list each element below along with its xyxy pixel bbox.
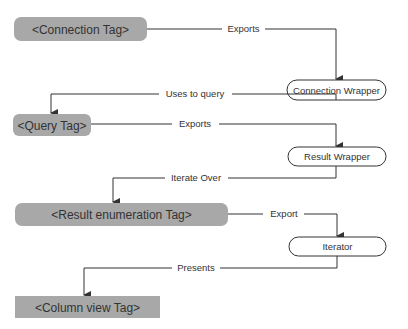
edge-query-exports: Exports: [91, 118, 336, 146]
query-tag-node: <Query Tag>: [13, 114, 91, 136]
edge-label: Presents: [177, 262, 215, 273]
edge-label: Uses to query: [166, 88, 225, 99]
edge-connection-exports: Exports: [147, 23, 336, 79]
edge-label: Exports: [179, 118, 211, 129]
connection-tag-node: <Connection Tag>: [14, 17, 147, 41]
result-wrapper-node: Result Wrapper: [288, 147, 386, 166]
flow-diagram: <Connection Tag> Exports Connection Wrap…: [0, 0, 408, 329]
edge-iterate-over: Iterate Over: [113, 166, 336, 202]
iterator-label: Iterator: [322, 241, 352, 252]
column-view-tag-label: <Column view Tag>: [35, 301, 140, 315]
edge-export: Export: [228, 208, 337, 236]
result-enumeration-tag-label: <Result enumeration Tag>: [51, 208, 192, 222]
edge-label: Iterate Over: [171, 172, 221, 183]
result-wrapper-label: Result Wrapper: [304, 151, 370, 162]
edge-presents: Presents: [84, 256, 337, 295]
edge-label: Export: [270, 208, 298, 219]
query-tag-label: <Query Tag>: [17, 119, 86, 133]
connection-tag-label: <Connection Tag>: [32, 23, 129, 37]
edge-label: Exports: [227, 23, 259, 34]
iterator-node: Iterator: [289, 237, 386, 256]
result-enumeration-tag-node: <Result enumeration Tag>: [15, 203, 228, 226]
column-view-tag-node: <Column view Tag>: [15, 296, 160, 318]
